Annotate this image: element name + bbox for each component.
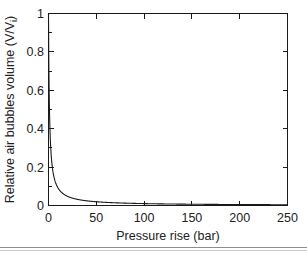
y-tick-label-0.6: 0.6 [27, 84, 44, 98]
y-tick-labels: 0 0.2 0.4 0.6 0.8 1 [27, 7, 44, 213]
data-series-group [49, 14, 288, 205]
y-axis-title: Relative air bubbles volume (V/Vi) [3, 16, 19, 204]
footer-divider-secondary [0, 250, 307, 251]
y-axis-ticks [49, 14, 288, 206]
y-tick-label-0: 0 [37, 199, 44, 213]
x-tick-labels: 0 50 100 150 200 250 [45, 211, 298, 225]
y-tick-label-1: 1 [37, 7, 44, 21]
x-tick-label-0: 0 [45, 211, 52, 225]
x-tick-label-100: 100 [134, 211, 155, 225]
bubble-volume-curve [49, 14, 288, 205]
pressure-vs-bubble-volume-chart: 0 50 100 150 200 250 0 0.2 0.4 0.6 0.8 1… [0, 0, 307, 255]
x-tick-label-200: 200 [229, 211, 250, 225]
x-tick-label-250: 250 [277, 211, 298, 225]
y-tick-label-0.8: 0.8 [27, 45, 44, 59]
axes-box [49, 14, 288, 206]
figure-panel: 0 50 100 150 200 250 0 0.2 0.4 0.6 0.8 1… [0, 0, 307, 255]
x-axis-ticks [49, 14, 288, 206]
y-tick-label-0.2: 0.2 [27, 161, 44, 175]
y-tick-label-0.4: 0.4 [27, 122, 44, 136]
x-tick-label-150: 150 [181, 211, 202, 225]
y-axis-title-main: Relative air bubbles volume (V/V [3, 21, 17, 203]
x-axis-title: Pressure rise (bar) [116, 229, 220, 243]
x-tick-label-50: 50 [89, 211, 103, 225]
footer-divider-primary [0, 247, 307, 248]
y-axis-title-close: ) [3, 16, 17, 20]
plot-frame [49, 14, 288, 206]
